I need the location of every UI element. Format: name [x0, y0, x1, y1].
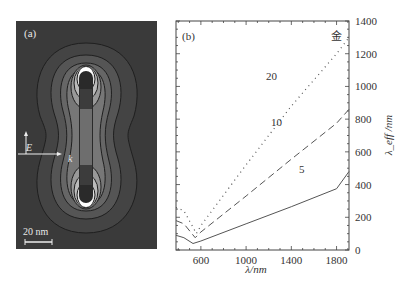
axis-ticks [176, 21, 349, 250]
svg-text:600: 600 [193, 254, 210, 266]
effective-wavelength-chart: 0200400600800100012001400 60010001400180… [0, 0, 402, 286]
svg-text:1200: 1200 [355, 48, 378, 60]
series-5-label: 5 [299, 163, 305, 175]
material-label: 金 [331, 29, 342, 42]
plot-frame [176, 21, 349, 250]
x-axis-tick-labels: 600100014001800 [193, 254, 348, 266]
svg-text:1400: 1400 [280, 254, 303, 266]
svg-text:200: 200 [355, 211, 372, 223]
svg-text:800: 800 [355, 113, 372, 125]
series-20-label: 20 [266, 70, 278, 82]
svg-text:1800: 1800 [326, 254, 349, 266]
svg-text:1000: 1000 [355, 80, 378, 92]
svg-text:1400: 1400 [355, 15, 378, 27]
svg-text:0: 0 [355, 244, 361, 256]
series-10-dashed-line [176, 109, 349, 237]
svg-text:600: 600 [355, 146, 372, 158]
y-axis-tick-labels: 0200400600800100012001400 [355, 15, 378, 256]
x-axis-label: λ/nm [244, 263, 266, 275]
series-20-dotted-line [176, 37, 349, 233]
panel-b-label: (b) [182, 30, 195, 43]
series-10-label: 10 [271, 116, 283, 128]
svg-text:400: 400 [355, 179, 372, 191]
y-axis-label: λ_eff /nm [382, 115, 394, 157]
